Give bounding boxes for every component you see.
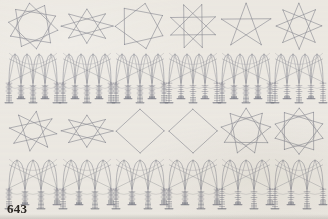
vertex-node (9, 127, 10, 128)
fig-r4c2 (59, 159, 116, 209)
arch-curve (41, 161, 49, 191)
vertex-node (321, 25, 322, 26)
vertex-node (224, 142, 225, 143)
vertex-node (105, 119, 106, 120)
vertex-node (105, 142, 106, 143)
vertex-node (56, 133, 57, 134)
vertex-node (124, 8, 125, 9)
vertex-node (221, 127, 222, 128)
tracery-diagonal (75, 54, 81, 84)
vertex-node (68, 37, 69, 38)
vertex-node (13, 143, 14, 144)
fig-r4c6 (271, 159, 328, 209)
arch-curve (201, 161, 209, 191)
vertex-node (192, 109, 193, 110)
tracery-diagonal (299, 54, 305, 84)
vertex-node (267, 142, 268, 143)
vertex-node (230, 113, 231, 114)
tracery-diagonal (252, 54, 258, 84)
vertex-node (275, 138, 276, 139)
vertex-node (61, 26, 62, 27)
vertex-node (61, 130, 62, 131)
vertex-node (139, 109, 140, 110)
tracery-foil (311, 85, 323, 88)
arch-curve (169, 161, 177, 191)
tracery-diagonal (187, 54, 193, 84)
tracery-diagonal (71, 160, 79, 190)
tracery-diagonal (254, 160, 262, 190)
fig-r3c3 (116, 109, 165, 154)
arch-curve (25, 161, 33, 191)
vertex-node (124, 44, 125, 45)
arch-curve (222, 161, 230, 191)
tracery-diagonal (63, 54, 69, 84)
page-number: 643 (7, 202, 27, 215)
vertex-node (299, 49, 300, 50)
tracery-diagonal (234, 54, 240, 84)
tracery-diagonal (87, 54, 93, 84)
tracery-diagonal (124, 160, 132, 190)
vertex-node (50, 42, 51, 43)
tracery-foil (287, 85, 299, 88)
vertex-node (282, 9, 283, 10)
tracery-diagonal (193, 54, 199, 84)
vertex-node (254, 152, 255, 153)
vertex-node (162, 15, 163, 16)
vertex-node (68, 119, 69, 120)
arch-curve (307, 161, 315, 191)
arch-curve (124, 161, 132, 191)
tracery-foil (193, 85, 205, 88)
fig-r3c4 (168, 109, 217, 154)
tracery-diagonal (148, 160, 156, 190)
tracery-diagonal (287, 54, 293, 84)
tracery-diagonal (33, 54, 39, 84)
arch-curve (185, 161, 193, 191)
arch-curve (116, 161, 124, 191)
tracery-diagonal (116, 54, 122, 84)
vertex-node (146, 48, 147, 49)
arch-curve (299, 161, 307, 191)
vertex-node (193, 152, 194, 153)
tracery-diagonal (307, 160, 315, 190)
tracery-diagonal (158, 54, 164, 84)
vertex-node (284, 149, 285, 150)
vertex-node (29, 150, 30, 151)
fig-r3c5 (221, 108, 272, 154)
fig-r3c2 (61, 115, 114, 148)
tracery-foil (25, 191, 41, 194)
tracery-diagonal (199, 54, 205, 84)
fig-r2c4 (165, 53, 222, 103)
vertex-node (10, 36, 11, 37)
star-path (221, 113, 262, 153)
fig-r4c5 (218, 159, 275, 209)
star-path (116, 109, 164, 153)
arch-curve (103, 161, 111, 191)
tracery-diagonal (317, 54, 323, 84)
tracery-foil (254, 191, 270, 194)
fig-r3c1 (9, 111, 58, 152)
arch-curve (193, 161, 201, 191)
vertex-node (105, 13, 106, 14)
tracery-foil (63, 191, 79, 194)
star-path (171, 5, 216, 48)
inner-circle (282, 116, 315, 147)
arch-curve (140, 161, 148, 191)
fig-r1c2 (61, 8, 114, 43)
tracery-foil (291, 191, 307, 194)
vertex-node (29, 3, 30, 4)
vertex-node (201, 4, 202, 5)
vertex-node (215, 16, 216, 17)
tracery-diagonal (17, 160, 25, 190)
tracery-foil (181, 85, 193, 88)
vertex-node (47, 147, 48, 148)
tracery-diagonal (240, 54, 246, 84)
arch-curve (79, 161, 87, 191)
vertex-node (15, 9, 16, 10)
arch-curve (275, 161, 283, 191)
inner-circle (16, 11, 49, 42)
vertex-node (322, 123, 323, 124)
tracery-foil (41, 191, 57, 194)
vertex-node (298, 154, 299, 155)
arch-curve (254, 161, 262, 191)
tracery-diagonal (211, 54, 217, 84)
